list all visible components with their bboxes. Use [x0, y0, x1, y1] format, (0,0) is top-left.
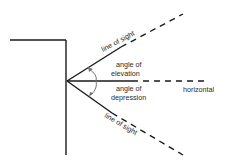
label-angle-of-depression-2: depression: [111, 93, 146, 102]
label-angle-of-elevation-2: elevation: [111, 69, 140, 78]
label-lower-line-of-sight: line of sight: [103, 111, 139, 137]
angles-diagram: line of sight angle of elevation angle o…: [0, 0, 238, 166]
angle-arcs: [89, 69, 96, 95]
label-angle-of-elevation-1: angle of: [116, 60, 142, 69]
lower-sight-solid: [67, 81, 112, 113]
label-angle-of-depression-1: angle of: [116, 84, 142, 93]
wall: [10, 40, 66, 155]
diagram-svg: line of sight angle of elevation angle o…: [0, 0, 238, 166]
label-horizontal: horizontal: [183, 85, 215, 94]
